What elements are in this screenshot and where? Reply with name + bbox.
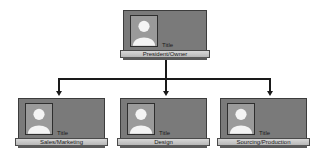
arrow-down-icon	[267, 91, 273, 96]
plate-shadow	[120, 145, 207, 148]
connector-left-drop	[58, 78, 60, 92]
node-title: Title	[159, 130, 170, 136]
org-node-root: Title President/Owner	[123, 10, 207, 60]
node-card: Title	[18, 98, 105, 139]
node-card: Title	[120, 98, 207, 139]
node-title: Title	[57, 130, 68, 136]
plate-shadow	[18, 145, 105, 148]
person-placeholder-icon	[227, 103, 255, 135]
node-card: Title	[220, 98, 307, 139]
arrow-down-icon	[163, 91, 169, 96]
person-placeholder-icon	[130, 15, 158, 47]
plate-shadow	[220, 145, 307, 148]
org-node-design: Title Design	[120, 98, 207, 148]
node-title: Title	[259, 130, 270, 136]
person-placeholder-icon	[127, 103, 155, 135]
org-node-sourcing-production: Title Sourcing/Production	[220, 98, 307, 148]
node-card: Title	[123, 10, 207, 51]
org-node-sales-marketing: Title Sales/Marketing	[18, 98, 105, 148]
person-placeholder-icon	[25, 103, 53, 135]
connector-right-drop	[269, 78, 271, 92]
arrow-down-icon	[56, 91, 62, 96]
connector-trunk	[165, 60, 167, 79]
connector-middle-drop	[165, 78, 167, 92]
node-title: Title	[162, 42, 173, 48]
